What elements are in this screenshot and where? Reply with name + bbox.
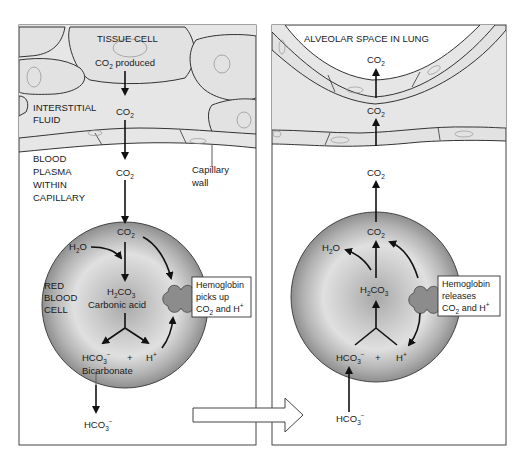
interstitial-fluid-label-2: FLUID (33, 114, 61, 125)
right-panel-lung: ALVEOLAR SPACE IN LUNG CO2 CO2 CO2 CO2 H… (272, 25, 506, 445)
diagram-canvas: TISSUE CELL CO2 produced INTERSTITIAL FL… (0, 0, 523, 460)
bicarbonate-label: Bicarbonate (82, 365, 133, 376)
hco3-in-label: HCO3− (336, 412, 365, 426)
carbonic-acid-label: Carbonic acid (88, 299, 146, 310)
left-panel-tissue: TISSUE CELL CO2 produced INTERSTITIAL FL… (19, 25, 256, 445)
plasma-label-2: PLASMA (33, 166, 72, 177)
rbc-label-2: BLOOD (44, 292, 77, 303)
hemoglobin-box-line-3: CO2 and H+ (196, 302, 244, 316)
plus-sign-right: + (375, 352, 381, 363)
capillary-wall-label-1: Capillary (192, 164, 229, 175)
interstitial-fluid-label-1: INTERSTITIAL (33, 102, 96, 113)
capillary-wall-label-2: wall (191, 177, 208, 188)
plasma-label-1: BLOOD (33, 153, 66, 164)
hco3-label-right: HCO3− (336, 351, 365, 365)
hemoglobin-box-line-1: Hemoglobin (196, 280, 244, 290)
plasma-label-3: WITHIN (33, 179, 67, 190)
hemoglobin-box-right-line-2: releases (442, 291, 477, 301)
rbc-label-3: CELL (44, 304, 68, 315)
alveolar-space-label: ALVEOLAR SPACE IN LUNG (304, 33, 429, 44)
tissue-cell-label: TISSUE CELL (97, 33, 158, 44)
hemoglobin-box-line-2: picks up (196, 292, 229, 302)
hemoglobin-box-right-line-1: Hemoglobin (442, 279, 490, 289)
plasma-label-4: CAPILLARY (33, 192, 86, 203)
plus-sign: + (127, 352, 133, 363)
hemoglobin-box-right-line-3: CO2 and H+ (442, 301, 490, 315)
hco3-label: HCO3− (82, 351, 111, 365)
rbc-label-1: RED (44, 280, 64, 291)
hco3-out-label: HCO3− (84, 418, 113, 432)
